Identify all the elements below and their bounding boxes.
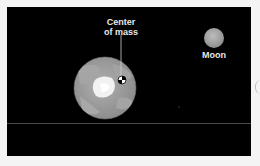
center-of-mass-label-line2: of mass	[96, 27, 146, 37]
page-edge-mark	[255, 80, 260, 94]
moon-label: Moon	[194, 50, 234, 60]
center-of-mass-label-line1: Center	[96, 17, 146, 27]
moon	[204, 28, 224, 48]
earth	[74, 57, 136, 119]
center-of-mass-label: Center of mass	[96, 17, 146, 37]
horizon-line	[7, 123, 251, 124]
center-of-mass-marker	[118, 76, 126, 84]
star-dot	[178, 106, 179, 107]
